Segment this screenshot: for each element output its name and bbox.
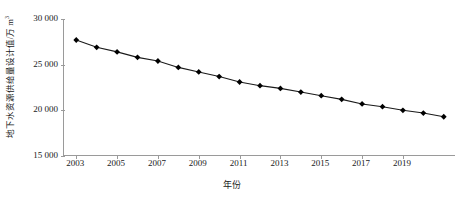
chart-figure: 地下水资源供给量设计值/万 m3 15 00020 00025 00030 00… [0,0,463,204]
data-point-marker [298,89,304,95]
x-axis-tick-label: 2015 [300,158,340,169]
y-axis-tick-mark [61,19,65,20]
x-axis-tick-label: 2019 [382,158,422,169]
series-line [76,40,444,117]
data-point-marker [380,104,386,110]
data-point-marker [94,44,100,50]
x-axis-tick-label: 2005 [96,158,136,169]
y-axis-tick-label: 30 000 [14,14,58,23]
x-axis-title: 年份 [0,180,463,191]
y-axis-tick-labels: 15 00020 00025 00030 000 [12,0,58,204]
y-axis-tick-label: 20 000 [14,105,58,114]
y-axis-tick-label: 25 000 [14,60,58,69]
y-axis-tick-mark [61,65,65,66]
y-axis-tick-mark [61,156,65,157]
x-axis-tick-labels: 200320052007200920112013201520172019 [63,158,463,174]
y-axis-tick-mark [61,110,65,111]
data-point-marker [318,93,324,99]
x-axis-tick-label: 2009 [178,158,218,169]
y-axis-title-exponent: 3 [4,16,10,19]
x-axis-tick-label: 2011 [219,158,259,169]
data-point-marker [237,79,243,85]
x-axis-tick-label: 2013 [259,158,299,169]
data-point-marker [359,101,365,107]
y-axis-tick-label: 15 000 [14,151,58,160]
data-point-marker [257,83,263,89]
data-point-marker [135,54,141,60]
data-point-marker [73,37,79,43]
data-point-marker [196,69,202,75]
x-axis-tick-label: 2007 [137,158,177,169]
data-point-marker [175,65,181,71]
x-axis-tick-label: 2017 [341,158,381,169]
data-point-marker [339,96,345,102]
x-axis-tick-label: 2003 [55,158,95,169]
line-series-svg [64,19,456,156]
series-markers [73,37,446,120]
plot-area [63,19,455,156]
data-point-marker [155,58,161,64]
data-point-marker [400,107,406,113]
data-point-marker [216,74,222,80]
data-point-marker [441,114,447,120]
data-point-marker [420,110,426,116]
data-point-marker [114,49,120,55]
data-point-marker [278,86,284,92]
